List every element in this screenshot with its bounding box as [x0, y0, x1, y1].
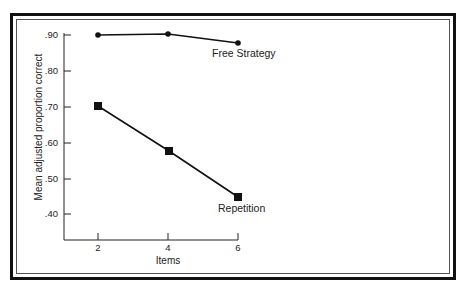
- series-free-strategy-markers: [95, 31, 241, 46]
- y-tick-label: .80: [45, 65, 58, 76]
- y-tick-label: .40: [45, 208, 58, 219]
- line-chart: .90 .80 .70 .60 .50 .40 2 4 6 Items Mean…: [0, 0, 466, 290]
- y-tick-label: .50: [45, 173, 58, 184]
- series-label-free-strategy: Free Strategy: [212, 47, 276, 59]
- x-tick-label: 4: [165, 242, 170, 253]
- y-tick-label: .60: [45, 137, 58, 148]
- x-tick-label: 2: [95, 242, 100, 253]
- y-tick-label: .90: [45, 29, 58, 40]
- y-axis-title: Mean adjusted proportion correct: [33, 53, 44, 200]
- y-ticks: [64, 35, 71, 214]
- x-ticks: [98, 233, 238, 240]
- x-axis-title: Items: [156, 255, 180, 266]
- series-label-repetition: Repetition: [218, 202, 265, 214]
- x-tick-label: 6: [235, 242, 240, 253]
- y-tick-label: .70: [45, 101, 58, 112]
